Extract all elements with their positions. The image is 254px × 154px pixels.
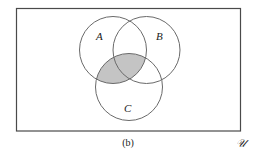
set-c-label: C <box>124 102 132 114</box>
set-a-label: A <box>95 30 103 42</box>
figure-caption: (b) <box>122 137 134 149</box>
universe-label: 𝒰 <box>236 137 249 149</box>
venn-diagram: A B C (b) 𝒰 <box>0 0 254 154</box>
set-b-label: B <box>156 30 163 42</box>
